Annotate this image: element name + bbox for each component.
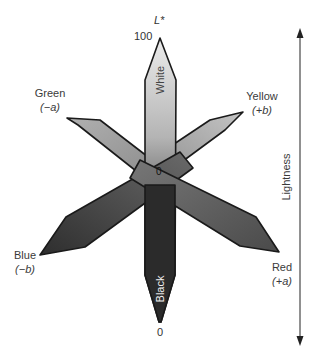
green-label: Green (−a) bbox=[30, 86, 70, 114]
lightness-label: Lightness bbox=[280, 147, 292, 207]
green-name: Green bbox=[30, 86, 70, 100]
red-axis: (+a) bbox=[268, 274, 296, 288]
arrow-up-icon bbox=[297, 28, 304, 38]
tick-100: 100 bbox=[134, 30, 152, 42]
red-name: Red bbox=[268, 260, 296, 274]
arrow-down-icon bbox=[297, 336, 304, 346]
blue-name: Blue bbox=[10, 248, 40, 262]
white-label: White bbox=[154, 62, 166, 98]
center-origin-label: 0 bbox=[156, 166, 162, 177]
yellow-label: Yellow (+b) bbox=[240, 89, 284, 117]
tick-0-bottom: 0 bbox=[157, 326, 163, 338]
cielab-diagram: L* 100 0 0 White Black Green (−a) Yellow… bbox=[0, 0, 318, 351]
blue-label: Blue (−b) bbox=[10, 248, 40, 276]
l-star-axis-label: L* bbox=[154, 14, 164, 26]
blue-axis: (−b) bbox=[10, 262, 40, 276]
yellow-name: Yellow bbox=[240, 89, 284, 103]
black-label: Black bbox=[154, 271, 166, 307]
lightness-arrow bbox=[297, 28, 304, 346]
yellow-axis: (+b) bbox=[240, 103, 284, 117]
red-label: Red (+a) bbox=[268, 260, 296, 288]
green-axis: (−a) bbox=[30, 100, 70, 114]
